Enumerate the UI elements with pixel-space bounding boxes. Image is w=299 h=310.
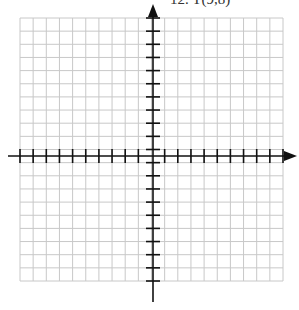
x-axis-arrow-icon — [284, 151, 297, 161]
coordinate-grid — [0, 0, 299, 310]
coordinate-plane-figure: 12. T(9,8) — [0, 0, 299, 310]
y-axis-arrow-icon — [148, 4, 158, 17]
